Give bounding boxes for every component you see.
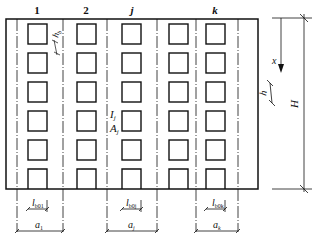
shear-wall-diagram: 1 2 j k Ij Aj hb x h H lb01 a1 lb0j aj l… bbox=[0, 0, 319, 244]
area-label: Aj bbox=[109, 122, 119, 136]
aj-label: aj bbox=[128, 219, 135, 231]
a1-label: a1 bbox=[35, 219, 43, 231]
inertia-label: Ij bbox=[109, 108, 116, 122]
h-label: h bbox=[257, 90, 269, 97]
openings bbox=[28, 24, 225, 189]
ak-label: ak bbox=[213, 219, 221, 231]
column-label-j: j bbox=[128, 4, 134, 16]
column-label-1: 1 bbox=[34, 4, 40, 16]
lb0k-label: lb0k bbox=[212, 197, 224, 209]
x-label: x bbox=[271, 55, 277, 66]
lb0j-label: lb0j bbox=[126, 197, 137, 209]
H-label: H bbox=[288, 99, 300, 109]
column-label-2: 2 bbox=[83, 4, 89, 16]
hb-dimension bbox=[52, 40, 60, 55]
hb-label: hb bbox=[50, 29, 63, 39]
lb01-label: lb01 bbox=[32, 197, 44, 209]
column-label-k: k bbox=[212, 4, 218, 16]
